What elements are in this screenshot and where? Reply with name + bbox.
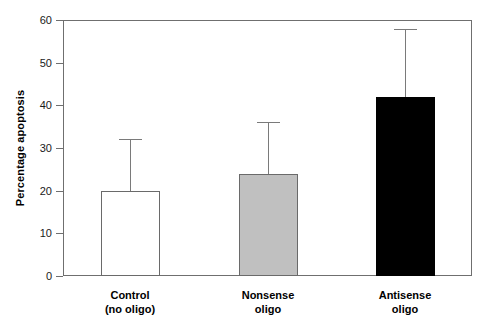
y-tick-label: 30: [8, 142, 52, 154]
y-tick-label: 10: [8, 227, 52, 239]
y-tick-mark: [56, 276, 63, 277]
bar-control: [101, 191, 160, 276]
y-tick-label: 40: [8, 99, 52, 111]
bar-nonsense: [239, 174, 298, 276]
x-axis-label-nonsense: Nonsenseoligo: [198, 288, 338, 316]
x-axis-label-line2: (no oligo): [60, 302, 200, 316]
x-axis-label-line1: Nonsense: [242, 289, 295, 301]
x-axis-label-line1: Control: [110, 289, 149, 301]
x-axis-label-antisense: Antisenseoligo: [335, 288, 475, 316]
bar-chart-figure: Percentage apoptosis 6050403020100 Contr…: [0, 0, 492, 330]
x-axis-label-line1: Antisense: [379, 289, 432, 301]
y-tick-mark: [56, 148, 63, 149]
x-axis-label-line2: oligo: [198, 302, 338, 316]
x-axis-label-line2: oligo: [335, 302, 475, 316]
error-bar-cap: [119, 139, 142, 140]
bar-antisense: [376, 97, 435, 276]
y-tick-label: 0: [8, 270, 52, 282]
y-tick-mark: [56, 191, 63, 192]
error-bar-cap: [257, 122, 280, 123]
y-tick-label: 20: [8, 185, 52, 197]
y-tick-label: 60: [8, 14, 52, 26]
x-axis-label-control: Control(no oligo): [60, 288, 200, 316]
error-bar-cap: [394, 29, 417, 30]
y-tick-mark: [56, 20, 63, 21]
y-tick-label: 50: [8, 57, 52, 69]
y-tick-mark: [56, 105, 63, 106]
y-tick-mark: [56, 233, 63, 234]
y-tick-mark: [56, 63, 63, 64]
